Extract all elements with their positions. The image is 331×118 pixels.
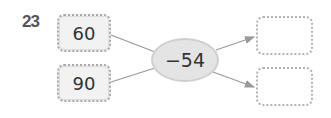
operation-oval: −54 [151,38,219,82]
input-box-1: 60 [57,14,111,52]
answer-box-1[interactable] [256,16,313,55]
answer-box-2[interactable] [256,67,313,106]
input-box-2: 90 [57,64,111,102]
problem-number: 23 [22,12,39,32]
